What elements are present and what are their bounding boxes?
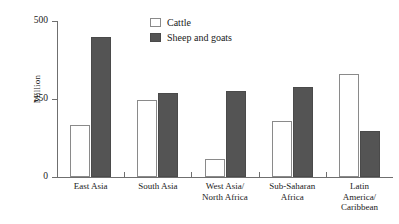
y-axis-tick-label: 0: [8, 172, 48, 182]
legend-label-cattle: Cattle: [167, 18, 191, 28]
legend-item-sheep-and-goats: Sheep and goats: [150, 31, 232, 44]
legend-item-cattle: Cattle: [150, 16, 232, 29]
legend-swatch-cattle-icon: [150, 18, 161, 27]
x-axis-category-label: East Asia: [57, 181, 124, 192]
bar-sheep-and-goats: [360, 131, 380, 177]
bar-cattle: [272, 121, 292, 177]
x-axis-category-label: Sub-Saharan Africa: [259, 181, 326, 202]
bar-sheep-and-goats: [226, 91, 246, 177]
bar-sheep-and-goats: [158, 93, 178, 177]
y-axis-title: Million: [32, 54, 42, 124]
y-axis-tick-label: 250: [8, 94, 48, 104]
y-axis-tick-label: 500: [8, 16, 48, 26]
x-axis-category-label: West Asia/ North Africa: [191, 181, 258, 202]
y-axis-tick: [52, 177, 58, 178]
x-axis-line: [57, 177, 393, 178]
bar-sheep-and-goats: [91, 37, 111, 177]
bar-sheep-and-goats: [293, 87, 313, 177]
grouped-bar-chart: Million 0250500 East AsiaSouth AsiaWest …: [0, 0, 399, 224]
chart-legend: Cattle Sheep and goats: [150, 16, 232, 46]
bar-cattle: [70, 125, 90, 177]
legend-swatch-sheep-and-goats-icon: [150, 33, 161, 42]
bar-cattle: [339, 74, 359, 177]
bar-cattle: [205, 159, 225, 177]
x-axis-category-label: South Asia: [124, 181, 191, 192]
legend-label-sheep-and-goats: Sheep and goats: [167, 33, 232, 43]
bar-cattle: [137, 100, 157, 177]
x-axis-category-label: Latin America/ Caribbean: [326, 181, 393, 213]
